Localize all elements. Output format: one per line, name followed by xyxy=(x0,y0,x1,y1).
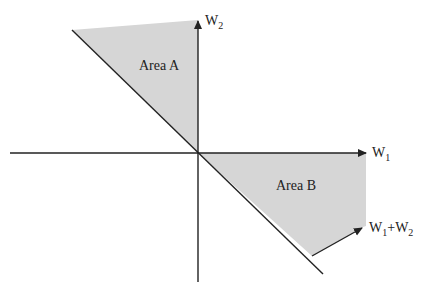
area-a-label: Area A xyxy=(139,58,180,73)
y-axis-label: W2 xyxy=(205,13,223,31)
area-a-region xyxy=(72,20,198,153)
x-axis-label: W1 xyxy=(372,145,390,163)
area-b-label: Area B xyxy=(276,178,316,193)
diagram-canvas: W2 W1 Area A Area B W1+W2 xyxy=(0,0,428,292)
vector-label: W1+W2 xyxy=(369,220,413,238)
